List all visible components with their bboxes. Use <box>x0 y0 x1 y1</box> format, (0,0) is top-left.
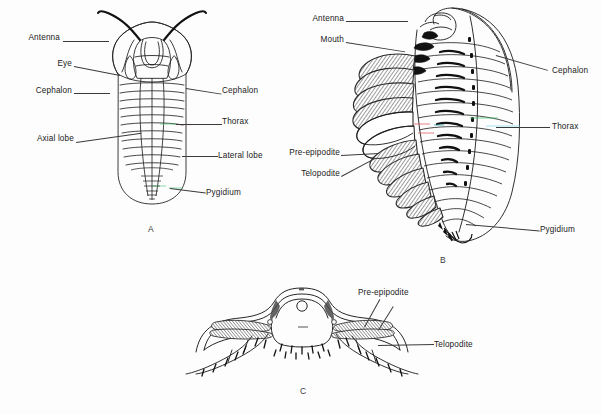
label-c-pre-epipodite: Pre-epipodite <box>358 289 409 297</box>
label-a-cephalon-left: Cephalon <box>0 87 72 95</box>
leader-b-antenna <box>346 21 408 22</box>
leader-a-cephalon-left <box>74 93 110 94</box>
leader-a-lateral-lobe <box>182 156 218 157</box>
figure-caption-a: A <box>148 224 154 234</box>
panel-a-antennae <box>98 11 206 40</box>
label-a-antenna: Antenna <box>0 34 60 42</box>
limb-joint-left <box>268 320 273 325</box>
label-a-cephalon-right: Cephalon <box>222 87 258 95</box>
label-b-mouth: Mouth <box>296 36 344 44</box>
trilobite-linework <box>0 0 602 414</box>
label-b-pygidium: Pygidium <box>540 226 575 234</box>
leader-b-thorax <box>496 127 550 128</box>
limb-joint-right <box>332 320 337 325</box>
panel-b-pygidium-fringe <box>438 222 453 241</box>
leader-a-antenna <box>63 41 109 42</box>
label-a-pygidium: Pygidium <box>206 189 241 197</box>
dorsal-tubercle <box>299 288 304 290</box>
label-b-thorax: Thorax <box>552 123 578 131</box>
panel-c-setae <box>202 338 402 376</box>
figure-caption-c: C <box>300 386 306 396</box>
eye-tubercle <box>297 301 307 311</box>
label-b-antenna: Antenna <box>296 15 344 23</box>
label-b-cephalon: Cephalon <box>552 67 588 75</box>
panel-b-appendage-bases <box>436 51 464 186</box>
label-a-thorax: Thorax <box>222 118 248 126</box>
label-a-lateral-lobe: Lateral lobe <box>218 152 263 160</box>
panel-b-color-marks <box>414 118 520 133</box>
label-c-telopodite: Telopodite <box>434 341 473 349</box>
panel-c-drawing <box>196 288 408 352</box>
label-a-eye: Eye <box>0 60 72 68</box>
figure-caption-b: B <box>440 255 446 265</box>
label-b-pre-epipodite: Pre-epipodite <box>276 149 340 157</box>
figure-canvas: Antenna Eye Cephalon Axial lobe Cephalon… <box>0 0 602 414</box>
label-a-axial-lobe: Axial lobe <box>0 135 74 143</box>
leader-a-thorax <box>176 124 222 125</box>
label-b-telopodite: Telopodite <box>276 170 340 178</box>
